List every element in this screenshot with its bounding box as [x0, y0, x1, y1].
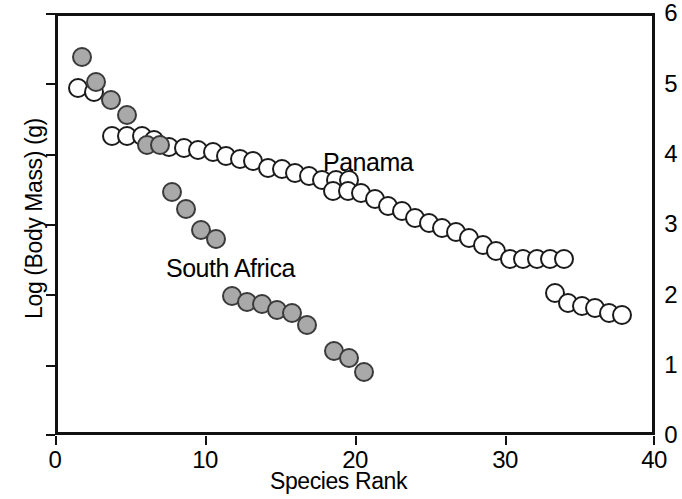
series-label-south-africa: South Africa — [166, 254, 295, 283]
data-point-south-africa-1 — [86, 72, 106, 92]
x-tick-mark-10 — [205, 436, 207, 445]
y-axis-title: Log (Body Mass) (g) — [21, 89, 48, 349]
x-tick-mark-30 — [505, 436, 507, 445]
x-tick-mark-40 — [653, 436, 655, 445]
data-point-panama-43 — [612, 305, 632, 325]
data-point-south-africa-2 — [101, 90, 121, 110]
x-tick-mark-20 — [355, 436, 357, 445]
x-axis-title: Species Rank — [0, 468, 677, 495]
data-point-south-africa-7 — [176, 199, 196, 219]
data-point-panama-37 — [554, 249, 574, 269]
data-point-south-africa-9 — [206, 229, 226, 249]
series-label-panama: Panama — [323, 148, 413, 177]
y-tick-mark-0 — [46, 434, 55, 436]
data-point-south-africa-3 — [117, 105, 137, 125]
y-tick-mark-1 — [46, 365, 55, 367]
y-tick-mark-5 — [46, 83, 55, 85]
y-tick-mark-6 — [46, 13, 55, 15]
x-tick-mark-0 — [55, 436, 57, 445]
